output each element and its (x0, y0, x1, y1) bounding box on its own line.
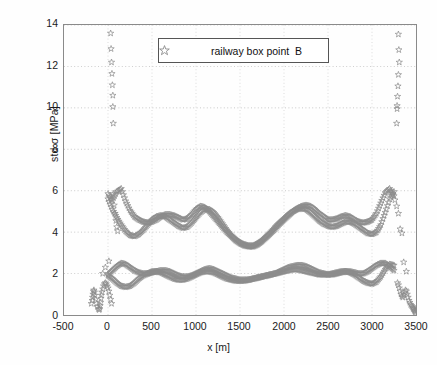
x-axis-label: x [m] (0, 341, 437, 353)
x-tick-label--500: -500 (41, 320, 85, 332)
legend[interactable]: railway box point B (158, 38, 329, 63)
x-tick-label-3500: 3500 (394, 320, 437, 332)
legend-star-marker (159, 45, 211, 56)
plot-area (63, 24, 417, 316)
y-tick-label-14: 14 (28, 17, 58, 29)
y-tick-label-6: 6 (28, 184, 58, 196)
y-tick-label-10: 10 (28, 100, 58, 112)
data-markers (88, 30, 416, 315)
scatter-canvas (64, 25, 416, 315)
series-markers (88, 280, 115, 313)
x-tick-label-2000: 2000 (262, 320, 306, 332)
series-markers (394, 280, 416, 315)
legend-label: railway box point B (211, 45, 302, 57)
x-tick-label-1000: 1000 (173, 320, 217, 332)
y-tick-label-2: 2 (28, 267, 58, 279)
y-tick-label-4: 4 (28, 226, 58, 238)
y-tick-label-12: 12 (28, 59, 58, 71)
x-tick-label-0: 0 (85, 320, 129, 332)
series-markers (108, 30, 117, 126)
y-tick-label-8: 8 (28, 142, 58, 154)
x-tick-label-1500: 1500 (217, 320, 261, 332)
series-markers (105, 185, 397, 249)
series-markers (105, 261, 397, 290)
x-tick-label-3000: 3000 (350, 320, 394, 332)
y-axis-label: std σ [MPa] (48, 74, 60, 194)
series-markers (394, 31, 403, 126)
x-tick-label-2500: 2500 (306, 320, 350, 332)
x-tick-label-500: 500 (129, 320, 173, 332)
figure-chart-std-sigma: std σ [MPa] x [m] 14 12 10 8 6 4 2 0 -50… (0, 0, 437, 365)
